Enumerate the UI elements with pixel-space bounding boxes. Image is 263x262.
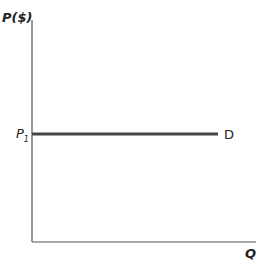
chart: P($) Q P1 D bbox=[0, 0, 263, 262]
y-tick-label: P1 bbox=[16, 126, 29, 144]
y-tick-subscript: 1 bbox=[24, 135, 29, 144]
y-axis-label: P($) bbox=[2, 10, 32, 25]
x-axis-label: Q bbox=[245, 246, 256, 261]
series-label-d: D bbox=[224, 127, 234, 142]
